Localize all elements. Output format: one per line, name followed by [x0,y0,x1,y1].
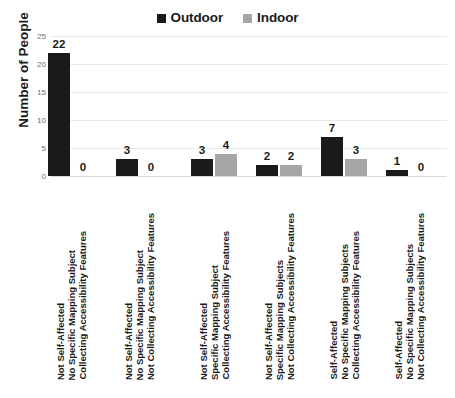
x-axis-label-line: No Specific Mapping Subjects [404,244,415,380]
bar-value-label: 3 [116,145,138,157]
y-axis-ticks: 25 20 15 10 5 0 [26,30,46,182]
bar [386,170,408,176]
square-marker-icon [243,14,252,23]
x-axis-label-line: No Specific Mapping Subject [134,250,145,380]
x-axis-label-line: Specific Mapping Subject [209,265,220,380]
bar-value-label: 0 [140,162,162,174]
x-axis-label-line: Not Collecting Accessibility Features [285,213,296,380]
x-axis-category-labels: Not Self-AffectedNo Specific Mapping Sub… [0,180,455,398]
x-axis-category-label: Self-AffectedNo Specific Mapping Subject… [369,180,449,380]
y-tick-label: 10 [26,117,46,125]
x-axis-label-line: Self-Affected [393,321,404,380]
legend-label-indoor: Indoor [257,11,298,25]
square-marker-icon [157,14,166,23]
bar-value-label: 22 [48,39,70,51]
bar [191,159,213,176]
x-axis-label-line: Specific Mapping Subjects [274,260,285,380]
x-axis-label-line: Not Self-Affected [55,303,66,380]
x-axis-line [51,176,447,177]
y-tick-label: 15 [26,89,46,97]
x-axis-label-line: No Specific Mapping Subjects [339,244,350,380]
x-axis-label-line: Not Self-Affected [123,303,134,380]
x-axis-label-line: Self-Affected [328,321,339,380]
bar-value-label: 2 [280,151,302,163]
x-axis-label-line: No Specific Mapping Subject [66,250,77,380]
legend-item-outdoor: Outdoor [157,11,224,25]
bars-layer: 2203034227310 [51,36,447,176]
bar [116,159,138,176]
x-axis-label-line: Not Self-Affected [263,303,274,380]
x-axis-label-line: Collecting Accessibility Features [220,231,231,380]
bar-value-label: 2 [256,151,278,163]
x-axis-label-line: Collecting Accessibility Features [350,231,361,380]
x-axis-label-line: Not Self-Affected [198,303,209,380]
legend-item-indoor: Indoor [243,11,298,25]
x-axis-category-label: Not Self-AffectedNo Specific Mapping Sub… [99,180,179,380]
bar-chart: Outdoor Indoor Number of People 25 20 15… [0,0,455,398]
y-tick-label: 25 [26,33,46,41]
bar [280,165,302,176]
bar [48,53,70,176]
bar-value-label: 1 [386,156,408,168]
bar-value-label: 0 [410,162,432,174]
bar [215,154,237,176]
bar-value-label: 3 [345,145,367,157]
chart-legend: Outdoor Indoor [0,8,455,28]
y-tick-label: 5 [26,145,46,153]
y-tick-label: 20 [26,61,46,69]
bar-value-label: 4 [215,140,237,152]
bar [345,159,367,176]
bar-value-label: 7 [321,123,343,135]
legend-label-outdoor: Outdoor [171,11,224,25]
bar-value-label: 0 [72,162,94,174]
bar [256,165,278,176]
x-axis-label-line: Not Collecting Accessibility Features [145,213,156,380]
x-axis-label-line: Collecting Accessibility Features [77,231,88,380]
x-axis-label-line: Not Collecting Accessibility Features [415,213,426,380]
bar-value-label: 3 [191,145,213,157]
bar [321,137,343,176]
